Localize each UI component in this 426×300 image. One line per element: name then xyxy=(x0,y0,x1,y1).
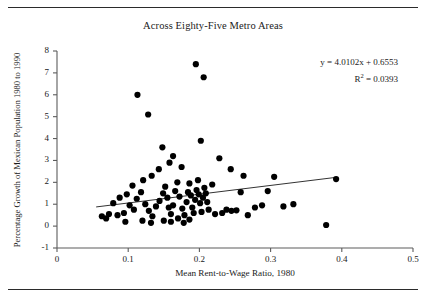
data-point xyxy=(201,185,207,191)
x-tick-label: 0.2 xyxy=(187,254,211,264)
data-point xyxy=(189,204,195,210)
data-point xyxy=(201,74,207,80)
data-point xyxy=(148,220,154,226)
data-point xyxy=(176,193,182,199)
y-tick-label: 2 xyxy=(35,176,49,186)
data-point xyxy=(172,188,178,194)
data-point xyxy=(134,92,140,98)
data-point xyxy=(153,203,159,209)
data-point xyxy=(265,188,271,194)
x-tick-label: 0.5 xyxy=(401,254,425,264)
data-point xyxy=(138,189,144,195)
data-point xyxy=(103,215,109,221)
data-point xyxy=(179,164,185,170)
data-point xyxy=(186,216,192,222)
data-point xyxy=(174,179,180,185)
x-tick-label: 0.4 xyxy=(330,254,354,264)
data-point xyxy=(139,218,145,224)
data-point xyxy=(259,202,265,208)
x-tick-label: 0.1 xyxy=(116,254,140,264)
data-point xyxy=(131,207,137,213)
data-point xyxy=(186,180,192,186)
data-point xyxy=(110,200,116,206)
y-tick-label: 4 xyxy=(35,133,49,143)
data-point xyxy=(198,209,204,215)
data-point xyxy=(149,173,155,179)
data-point xyxy=(238,189,244,195)
y-tick-label: 3 xyxy=(35,154,49,164)
trendline xyxy=(96,177,336,207)
data-point xyxy=(156,166,162,172)
data-point xyxy=(145,111,151,117)
data-point xyxy=(290,201,296,207)
data-point xyxy=(121,210,127,216)
data-point xyxy=(216,155,222,161)
data-point xyxy=(212,211,218,217)
data-point xyxy=(162,184,168,190)
data-point xyxy=(117,195,123,201)
y-tick-label: -1 xyxy=(35,242,49,252)
data-point xyxy=(198,138,204,144)
y-tick-label: 6 xyxy=(35,89,49,99)
data-point xyxy=(181,220,187,226)
y-tick-label: 7 xyxy=(35,67,49,77)
data-point xyxy=(197,200,203,206)
data-point xyxy=(122,219,128,225)
data-point xyxy=(209,181,215,187)
data-point xyxy=(164,195,170,201)
x-tick-label: 0.3 xyxy=(259,254,283,264)
data-point xyxy=(124,191,130,197)
data-point xyxy=(166,160,172,166)
data-point xyxy=(228,166,234,172)
data-points xyxy=(99,61,339,228)
data-point xyxy=(193,61,199,67)
data-point xyxy=(170,202,176,208)
data-point xyxy=(333,176,339,182)
data-point xyxy=(146,208,152,214)
data-point xyxy=(159,144,165,150)
trendline-segment xyxy=(96,177,336,207)
data-point xyxy=(168,211,174,217)
data-point xyxy=(140,177,146,183)
data-point xyxy=(203,190,209,196)
x-tick-label: 0 xyxy=(45,254,69,264)
data-point xyxy=(129,183,135,189)
data-point xyxy=(233,207,239,213)
data-point xyxy=(206,207,212,213)
data-point xyxy=(240,173,246,179)
axes-group xyxy=(53,51,413,252)
data-point xyxy=(175,215,181,221)
data-point xyxy=(204,199,210,205)
data-point xyxy=(168,219,174,225)
data-point xyxy=(142,201,148,207)
y-tick-label: 1 xyxy=(35,198,49,208)
data-point xyxy=(179,206,185,212)
data-point xyxy=(323,222,329,228)
data-point xyxy=(252,204,258,210)
y-tick-label: 0 xyxy=(35,220,49,230)
data-point xyxy=(134,196,140,202)
data-point xyxy=(183,199,189,205)
data-point xyxy=(271,174,277,180)
data-point xyxy=(161,218,167,224)
data-point xyxy=(245,212,251,218)
data-point xyxy=(149,213,155,219)
data-point xyxy=(191,210,197,216)
data-point xyxy=(114,212,120,218)
y-tick-label: 8 xyxy=(35,45,49,55)
data-point xyxy=(181,212,187,218)
data-point xyxy=(170,153,176,159)
data-point xyxy=(195,177,201,183)
y-tick-label: 5 xyxy=(35,111,49,121)
data-point xyxy=(156,198,162,204)
figure-container: Across Eighty-Five Metro Areas Percentag… xyxy=(0,0,426,300)
data-point xyxy=(280,203,286,209)
